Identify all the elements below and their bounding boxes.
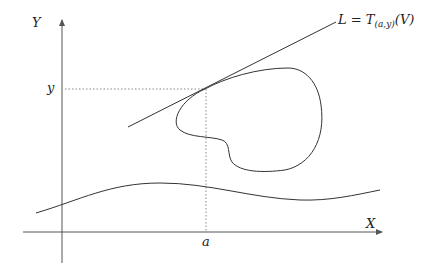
tangent-line [128,22,336,127]
lower-curve [36,183,380,213]
closed-curve [176,68,322,171]
tangent-label-subscript: (a,y) [374,19,395,29]
diagram-canvas: Y y X a L = T(a,y)(V) [0,0,429,275]
tangent-label-prefix: L = T [337,12,376,27]
tangent-label-suffix: (V) [395,12,415,27]
tangent-line-label: L = T(a,y)(V) [337,12,414,29]
y-axis-label: Y [32,15,42,30]
point-y-label: y [46,80,55,95]
x-axis-label: X [365,216,376,231]
point-a-label: a [202,234,210,249]
